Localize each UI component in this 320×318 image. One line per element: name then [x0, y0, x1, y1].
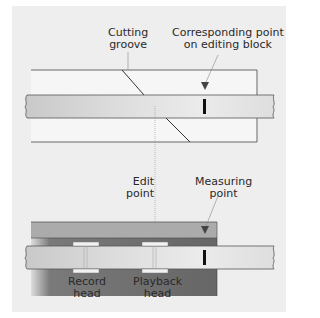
cutting-groove-label: Cutting groove: [108, 27, 148, 51]
corresponding-point-label: Corresponding point on editing block: [172, 27, 284, 51]
record-head-label-line2: head: [68, 288, 106, 300]
record-head-label: Record head: [68, 276, 106, 300]
tape-upper: [25, 95, 274, 118]
measuring-mark: [203, 250, 206, 265]
measuring-label-line2: point: [195, 188, 252, 200]
playback-head-label: Playback head: [133, 276, 182, 300]
edit-point-label-line2: point: [126, 188, 154, 200]
cutting-groove-label-line2: groove: [108, 39, 148, 51]
corresponding-label-line2: on editing block: [172, 39, 284, 51]
corresponding-mark: [203, 99, 206, 114]
measuring-point-label: Measuring point: [195, 176, 252, 200]
tape-lower: [25, 246, 274, 269]
edit-point-label: Edit point: [126, 176, 154, 200]
playback-head-label-line2: head: [133, 288, 182, 300]
